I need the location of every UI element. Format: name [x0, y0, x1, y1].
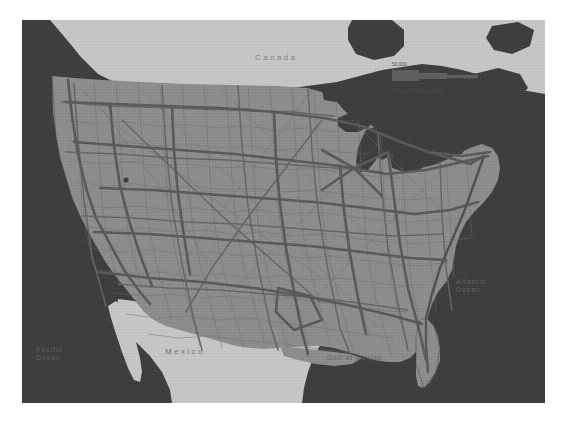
great-salt-lake — [123, 177, 128, 182]
legend-segment-25000 — [419, 73, 447, 79]
legend-tick-50000: 50,000 — [392, 62, 407, 67]
legend-tapered-bar — [392, 70, 478, 84]
legend-tick-mark-2 — [422, 72, 423, 74]
map-legend: 50,000 25,000 12,500 Truck Volume / Day — [392, 62, 484, 107]
legend-tick-mark-3 — [450, 74, 451, 76]
screenshot-root: Canada Mexico Pacific Ocean Atlantic Oce… — [0, 0, 573, 429]
legend-segment-12500 — [447, 75, 478, 78]
hudson-bay — [348, 20, 404, 60]
legend-segment-50000 — [392, 70, 419, 81]
truck-volume-map[interactable]: Canada Mexico Pacific Ocean Atlantic Oce… — [22, 20, 545, 403]
legend-caption: Truck Volume / Day — [394, 88, 444, 94]
legend-tick-mark-1 — [394, 70, 395, 71]
